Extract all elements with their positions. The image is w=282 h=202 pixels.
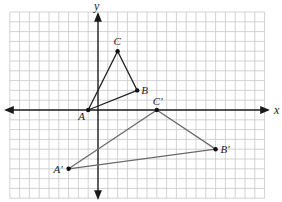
x-axis-label: x <box>273 103 280 117</box>
vertex-label: A' <box>53 163 64 175</box>
vertex-point <box>115 49 119 53</box>
vertex-point <box>155 108 159 112</box>
grid <box>10 12 265 198</box>
vertex-point <box>66 167 70 171</box>
vertex-label: C <box>114 35 122 47</box>
coordinate-plane-diagram: x y ABC A'B'C' <box>0 0 282 202</box>
vertex-point <box>213 147 217 151</box>
vertex-point <box>86 108 90 112</box>
x-axis: x <box>6 103 280 117</box>
vertex-label: B' <box>221 143 231 155</box>
vertex-label: C' <box>153 95 163 107</box>
vertex-point <box>135 88 139 92</box>
vertex-label: A <box>77 110 85 122</box>
vertex-label: B <box>141 84 148 96</box>
y-axis-label: y <box>93 0 100 13</box>
triangle-a-prime-b-prime-c-prime: A'B'C' <box>53 95 231 175</box>
